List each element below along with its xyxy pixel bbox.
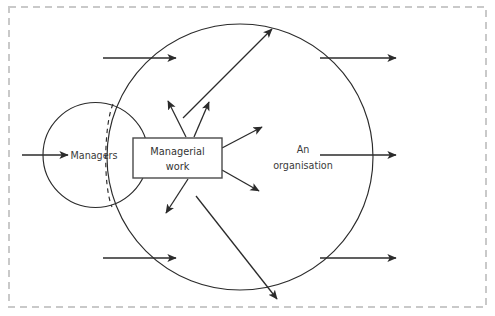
managerial-work-label-line2: work	[166, 161, 190, 172]
radiating-arrow-up-left	[168, 101, 186, 137]
managers-label: Managers	[70, 150, 117, 161]
organisation-label-line2: organisation	[273, 160, 333, 171]
diagram-canvas: Managers Managerial work An organisation	[0, 0, 495, 316]
organisation-label-line1: An	[297, 144, 310, 155]
radiating-arrow-right-down	[222, 170, 259, 191]
radiating-arrow-right-up	[222, 127, 262, 148]
managerial-work-box	[133, 138, 222, 178]
managerial-work-label-line1: Managerial	[150, 146, 204, 157]
diagram-svg: Managers Managerial work An organisation	[0, 0, 495, 316]
radiating-arrow-down-left	[166, 179, 188, 213]
diagonal-arrow-upper-right	[183, 29, 272, 118]
radiating-arrow-up-right	[194, 102, 209, 137]
diagonal-arrow-lower-right	[196, 196, 277, 299]
